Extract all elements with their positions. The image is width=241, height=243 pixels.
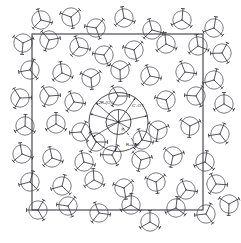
label-C-prime-OT: C'-OT — [132, 103, 144, 108]
label-R1-inner: R₁ — [122, 128, 125, 132]
center-point — [117, 121, 119, 123]
molecular-packing-figure: √2R₁(O₄) C'-OT R₂=3O R₁ — [0, 0, 241, 243]
label-R2: R₂=3O — [126, 142, 140, 147]
figure-canvas: √2R₁(O₄) C'-OT R₂=3O R₁ — [0, 0, 241, 243]
label-sqrt2R1: √2R₁(O₄) — [96, 100, 114, 105]
